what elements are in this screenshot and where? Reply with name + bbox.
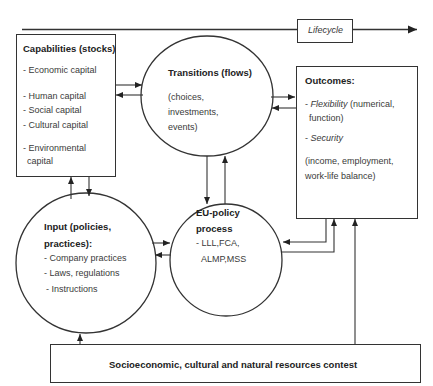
transitions-circle — [141, 36, 273, 156]
capabilities-title: Capabilities (stocks) — [23, 43, 115, 54]
transitions-line: investments, — [168, 107, 219, 118]
capabilities-box: Capabilities (stocks) - Economic capital… — [16, 34, 116, 177]
outcomes-title: Outcomes: — [305, 75, 355, 86]
capabilities-item: - Cultural capital — [23, 120, 88, 131]
input-item: - Laws, regulations — [44, 268, 120, 279]
outcomes-box: Outcomes: - Flexibility (numerical, func… — [296, 66, 418, 219]
security-label: Security — [311, 133, 344, 143]
context-box: Socioeconomic, cultural and natural reso… — [50, 344, 421, 383]
outcomes-flexibility-detail: function) — [309, 113, 344, 124]
transitions-outcomes-arrows — [271, 97, 296, 108]
capabilities-item: - Economic capital — [23, 65, 97, 76]
lifecycle-box: Lifecycle — [297, 19, 353, 43]
lifecycle-label: Lifecycle — [308, 25, 343, 36]
capabilities-transitions-arrows — [115, 85, 143, 95]
eu-policy-item: ALMP,MSS — [201, 254, 246, 265]
flexibility-label: Flexibility — [311, 99, 348, 109]
eu-policy-title: EU-policy — [196, 207, 240, 218]
flexibility-detail: (numerical, — [348, 99, 395, 109]
input-item: - Company practices — [44, 253, 127, 264]
transitions-title: Transitions (flows) — [168, 67, 252, 78]
outcomes-security-detail: work-life balance) — [305, 171, 376, 182]
input-item: - Instructions — [46, 284, 98, 295]
input-title: Input (policies, — [44, 221, 111, 232]
context-label: Socioeconomic, cultural and natural reso… — [109, 359, 357, 370]
capabilities-item: - Environmental — [23, 143, 86, 154]
eu-policy-title: process — [196, 223, 232, 234]
transitions-line: (choices, — [168, 92, 204, 103]
transitions-eupolicy-arrows — [207, 156, 225, 204]
eu-policy-item: - LLL,FCA, — [196, 238, 240, 249]
outcomes-eupolicy-arrows — [281, 218, 334, 252]
outcomes-security-detail: (income, employment, — [305, 156, 394, 167]
outcomes-flexibility: - Flexibility (numerical, — [305, 99, 395, 110]
capabilities-item: - Social capital — [23, 105, 82, 116]
transitions-line: events) — [168, 122, 198, 133]
outcomes-security: - Security — [305, 133, 343, 144]
input-title: practices): — [44, 238, 92, 249]
capabilities-item: capital — [27, 156, 53, 167]
capabilities-item: - Human capital — [23, 91, 86, 102]
